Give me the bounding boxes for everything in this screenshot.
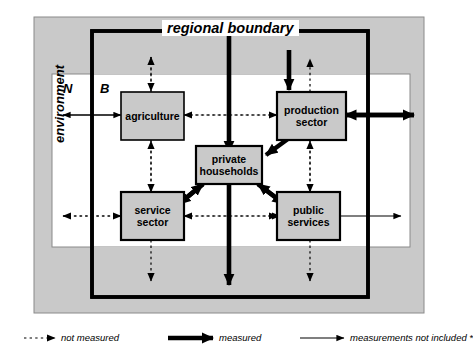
legend-label-not-measured: not measured: [61, 332, 119, 343]
node-box-service-sector: [121, 192, 184, 240]
node-box-agriculture: [121, 92, 184, 140]
zone-label-n: N: [63, 81, 72, 96]
node-box-production-sector: [277, 92, 346, 140]
zone-label-b: B: [100, 81, 109, 96]
environment-label: environment: [52, 65, 67, 143]
node-box-private-households: [196, 146, 262, 184]
regional-boundary-label: regional boundary: [162, 20, 299, 36]
node-box-public-services: [277, 192, 340, 240]
legend-label-measured: measured: [219, 332, 261, 343]
legend-label-measurements-not-included: measurements not included *: [350, 332, 473, 343]
